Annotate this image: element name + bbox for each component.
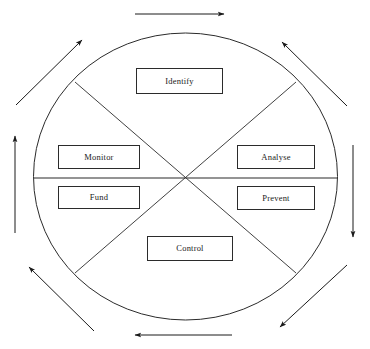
arrow-bottom-left bbox=[29, 267, 94, 331]
node-analyse[interactable]: Analyse bbox=[237, 145, 315, 169]
diagram-canvas bbox=[0, 0, 370, 349]
node-monitor-label: Monitor bbox=[84, 152, 113, 161]
node-prevent[interactable]: Prevent bbox=[237, 186, 315, 210]
node-fund-label: Fund bbox=[90, 193, 108, 202]
node-prevent-label: Prevent bbox=[262, 193, 289, 202]
node-control-label: Control bbox=[176, 244, 203, 253]
node-fund[interactable]: Fund bbox=[58, 186, 140, 209]
arrow-bottom-right bbox=[280, 265, 347, 327]
arrow-top-left bbox=[16, 40, 82, 105]
node-identify-label: Identify bbox=[165, 76, 194, 85]
node-identify[interactable]: Identify bbox=[136, 68, 223, 94]
cycle-diagram: Identify Analyse Prevent Control Fund Mo… bbox=[0, 0, 370, 349]
node-analyse-label: Analyse bbox=[261, 152, 290, 161]
node-monitor[interactable]: Monitor bbox=[58, 145, 140, 169]
node-control[interactable]: Control bbox=[147, 236, 233, 261]
